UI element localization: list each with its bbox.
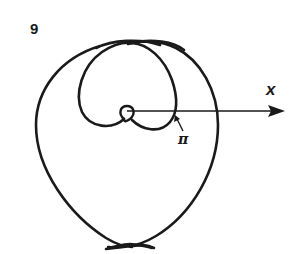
figure-canvas: 9 x π (0, 0, 298, 254)
inner-loop-curve (79, 43, 176, 130)
pi-pointer-arrowhead-icon (174, 115, 180, 122)
outer-loop-curve (36, 41, 218, 249)
polar-curve-plot (0, 0, 298, 254)
pi-annotation-label: π (178, 131, 188, 147)
x-axis-label: x (266, 80, 275, 100)
origin-small-loop (120, 106, 133, 121)
pi-pointer-line (177, 119, 183, 131)
